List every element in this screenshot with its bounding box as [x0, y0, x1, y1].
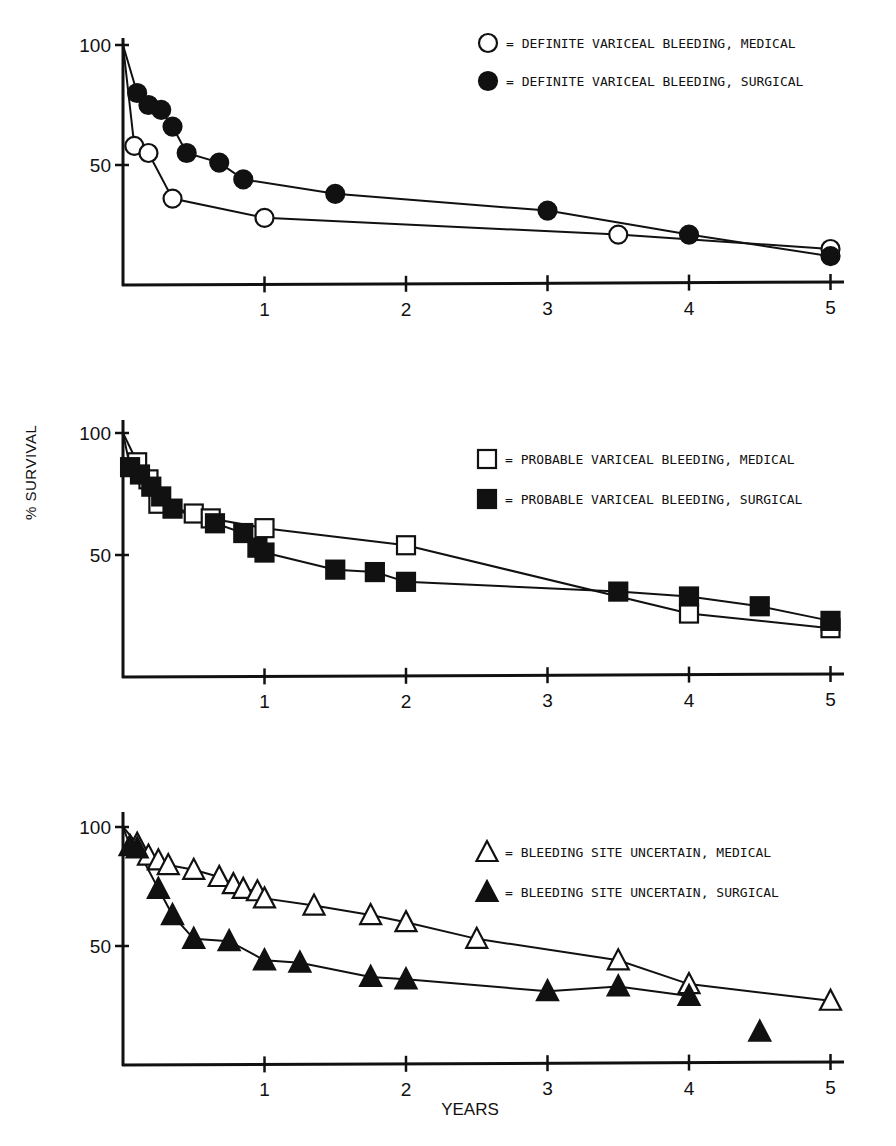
data-point-open-triangle	[209, 866, 230, 886]
x-tick-label: 1	[259, 299, 270, 320]
data-point-filled-triangle	[608, 975, 629, 995]
data-point-filled-circle	[164, 118, 182, 136]
data-point-filled-circle	[680, 226, 698, 244]
data-point-open-circle	[164, 190, 182, 208]
x-tick-label: 5	[825, 689, 836, 710]
x-axis	[122, 1062, 844, 1065]
data-point-filled-square	[822, 612, 840, 630]
data-point-filled-square	[751, 597, 769, 615]
data-point-filled-circle	[152, 101, 170, 119]
legend-filled-circle-icon	[479, 72, 497, 90]
data-point-filled-circle	[210, 154, 228, 172]
data-point-filled-square	[397, 573, 415, 591]
legend-filled-triangle-icon	[477, 881, 498, 901]
chart-panel-2: 5010012345= PROBABLE VARICEAL BLEEDING, …	[79, 420, 844, 712]
legend-label: = DEFINITE VARICEAL BLEEDING, MEDICAL	[506, 36, 796, 51]
data-point-filled-square	[206, 514, 224, 532]
data-point-filled-circle	[539, 202, 557, 220]
x-tick-label: 3	[542, 298, 553, 319]
legend-label: = PROBABLE VARICEAL BLEEDING, SURGICAL	[505, 492, 803, 507]
legend-label: = BLEEDING SITE UNCERTAIN, SURGICAL	[505, 885, 779, 900]
x-tick-label: 5	[825, 1077, 836, 1098]
legend-label: = DEFINITE VARICEAL BLEEDING, SURGICAL	[506, 74, 804, 89]
y-tick-label: 100	[79, 817, 111, 838]
x-tick-label: 5	[825, 297, 836, 318]
data-point-filled-square	[256, 544, 274, 562]
y-tick-label: 50	[90, 936, 111, 957]
legend: = DEFINITE VARICEAL BLEEDING, MEDICAL= D…	[479, 34, 804, 90]
data-point-filled-square	[680, 587, 698, 605]
data-point-filled-circle	[326, 185, 344, 203]
data-point-filled-circle	[178, 144, 196, 162]
x-axis	[122, 674, 844, 677]
legend-label: = BLEEDING SITE UNCERTAIN, MEDICAL	[505, 845, 771, 860]
data-point-filled-square	[326, 561, 344, 579]
x-axis-label: YEARS	[441, 1100, 499, 1119]
chart-panel-1: 5010012345= DEFINITE VARICEAL BLEEDING, …	[79, 34, 844, 320]
data-point-filled-square	[366, 563, 384, 581]
y-tick-label: 50	[90, 545, 111, 566]
data-point-open-square	[185, 505, 203, 523]
data-point-open-square	[256, 519, 274, 537]
data-point-filled-triangle	[254, 949, 275, 969]
data-point-filled-circle	[822, 247, 840, 265]
data-point-open-circle	[256, 209, 274, 227]
y-tick-label: 100	[79, 423, 111, 444]
data-point-open-circle	[139, 144, 157, 162]
x-tick-label: 2	[401, 691, 412, 712]
data-point-filled-triangle	[162, 904, 183, 924]
legend-open-circle-icon	[479, 34, 497, 52]
x-tick-label: 1	[259, 691, 270, 712]
y-tick-label: 50	[90, 155, 111, 176]
y-axis-label: % SURVIVAL	[22, 425, 39, 520]
y-tick-label: 100	[79, 35, 111, 56]
legend: = PROBABLE VARICEAL BLEEDING, MEDICAL= P…	[478, 450, 803, 508]
legend-open-triangle-icon	[477, 841, 498, 861]
data-point-filled-circle	[234, 170, 252, 188]
data-point-open-square	[680, 605, 698, 623]
data-point-filled-triangle	[749, 1021, 770, 1041]
legend: = BLEEDING SITE UNCERTAIN, MEDICAL= BLEE…	[477, 841, 780, 901]
legend-open-square-icon	[478, 450, 496, 468]
data-point-open-square	[397, 536, 415, 554]
data-point-open-circle	[609, 226, 627, 244]
legend-filled-square-icon	[478, 490, 496, 508]
data-point-filled-triangle	[148, 878, 169, 898]
data-point-filled-square	[164, 500, 182, 518]
x-tick-label: 3	[542, 1078, 553, 1099]
x-tick-label: 1	[259, 1079, 270, 1100]
x-tick-label: 4	[684, 1078, 695, 1099]
x-tick-label: 2	[401, 299, 412, 320]
data-point-filled-square	[609, 583, 627, 601]
legend-label: = PROBABLE VARICEAL BLEEDING, MEDICAL	[505, 452, 795, 467]
chart-panel-3: 5010012345= BLEEDING SITE UNCERTAIN, MED…	[79, 812, 844, 1119]
x-tick-label: 3	[542, 690, 553, 711]
x-tick-label: 2	[401, 1079, 412, 1100]
x-axis	[122, 282, 844, 285]
survival-figure: 5010012345= DEFINITE VARICEAL BLEEDING, …	[0, 0, 896, 1146]
x-tick-label: 4	[684, 298, 695, 319]
x-tick-label: 4	[684, 690, 695, 711]
